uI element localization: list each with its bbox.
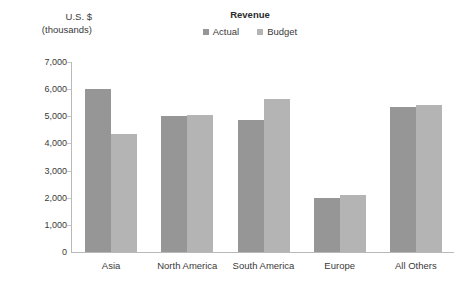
y-tick-label: 5,000 [7, 111, 67, 121]
bar-group [314, 62, 366, 252]
plot-area [71, 62, 452, 252]
x-axis-label: All Others [395, 260, 437, 271]
legend-swatch-icon-actual [203, 29, 209, 35]
bar-group [238, 62, 290, 252]
legend-label-budget: Budget [267, 26, 297, 37]
legend-label-actual: Actual [213, 26, 239, 37]
y-tick-label: 4,000 [7, 138, 67, 148]
y-tick-label: 1,000 [7, 220, 67, 230]
bar-north-america-budget[interactable] [187, 115, 213, 252]
legend-item-budget[interactable]: Budget [257, 26, 297, 37]
x-axis-label: Europe [324, 260, 355, 271]
x-axis-label: North America [157, 260, 217, 271]
chart-title: Revenue [150, 9, 350, 20]
bar-all-others-budget[interactable] [416, 105, 442, 252]
bar-all-others-actual[interactable] [390, 107, 416, 252]
y-tick-label: 6,000 [7, 84, 67, 94]
y-tick-label: 3,000 [7, 166, 67, 176]
y-axis-title-line1: U.S. $ [14, 10, 92, 23]
bar-group [390, 62, 442, 252]
bar-europe-budget[interactable] [340, 195, 366, 252]
chart-legend: Actual Budget [150, 26, 350, 37]
bar-south-america-actual[interactable] [238, 120, 264, 252]
x-axis-label: South America [233, 260, 295, 271]
bar-south-america-budget[interactable] [264, 99, 290, 252]
bar-north-america-actual[interactable] [161, 116, 187, 252]
x-axis-line [71, 252, 454, 253]
y-tick-label: 0 [7, 247, 67, 257]
y-tick-label: 2,000 [7, 193, 67, 203]
y-axis-title-line2: (thousands) [14, 23, 92, 36]
legend-swatch-icon-budget [257, 29, 263, 35]
x-axis-label: Asia [102, 260, 120, 271]
y-axis-title: U.S. $ (thousands) [14, 10, 92, 36]
legend-item-actual[interactable]: Actual [203, 26, 239, 37]
bar-chart: U.S. $ (thousands) Revenue Actual Budget… [0, 0, 461, 288]
bar-group [85, 62, 137, 252]
bar-europe-actual[interactable] [314, 198, 340, 252]
bar-asia-budget[interactable] [111, 134, 137, 252]
bar-group [161, 62, 213, 252]
bar-asia-actual[interactable] [85, 89, 111, 252]
y-tick-label: 7,000 [7, 57, 67, 67]
